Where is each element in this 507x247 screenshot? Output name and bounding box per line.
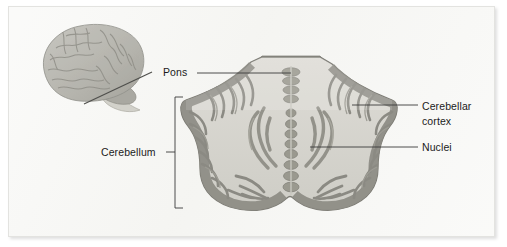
- label-cerebellar-cortex: Cerebellar cortex: [422, 99, 494, 128]
- cerebellum-horizontal-section: [181, 56, 397, 210]
- label-cerebellar-cortex-line2: cortex: [422, 115, 451, 127]
- label-cerebellum: Cerebellum: [101, 146, 156, 159]
- label-pons: Pons: [163, 66, 187, 79]
- anatomy-figure: Pons Cerebellum Cerebellar cortex Nuclei: [0, 0, 507, 247]
- label-cerebellar-cortex-line1: Cerebellar: [422, 100, 471, 112]
- label-nuclei: Nuclei: [422, 141, 452, 154]
- lateral-brain-illustration: [43, 24, 152, 111]
